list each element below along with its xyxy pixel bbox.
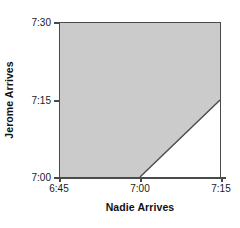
y-tick-mark-715: [54, 100, 59, 102]
probability-region-chart: 7:30 7:15 7:00 6:45 7:00 7:15 Jerome Arr…: [0, 0, 240, 228]
shaded-region-polygon: [60, 23, 220, 177]
y-axis-title: Jerome Arrives: [3, 61, 15, 138]
x-tick-label-700: 7:00: [130, 183, 149, 194]
x-axis-title: Nadie Arrives: [106, 201, 175, 213]
x-tick-mark-715: [221, 177, 223, 182]
y-tick-label-715: 7:15: [32, 95, 51, 106]
plot-area: [59, 22, 221, 178]
x-tick-mark-700: [140, 177, 142, 182]
x-tick-label-715: 7:15: [211, 183, 230, 194]
y-tick-label-700: 7:00: [32, 172, 51, 183]
y-tick-label-730: 7:30: [32, 17, 51, 28]
shaded-region-svg: [60, 23, 220, 177]
x-tick-label-645: 6:45: [49, 183, 68, 194]
y-tick-mark-730: [54, 22, 59, 24]
x-tick-mark-645: [59, 177, 61, 182]
